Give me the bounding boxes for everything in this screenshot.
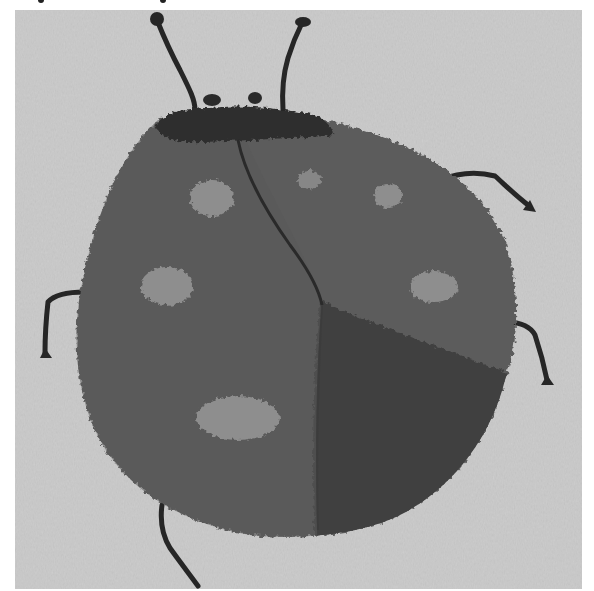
head-bump-right [248,92,262,104]
spot [374,184,402,208]
ladybug-tapestry-photo [15,10,582,589]
spot [141,267,193,305]
spot [196,396,280,440]
clipped-caption-fragment [0,0,594,3]
spot [410,271,458,303]
antenna-tip-right [295,17,311,27]
head-bump-left [203,94,221,106]
spot [297,170,321,190]
spot [190,180,234,216]
antenna-tip-left [150,12,164,26]
